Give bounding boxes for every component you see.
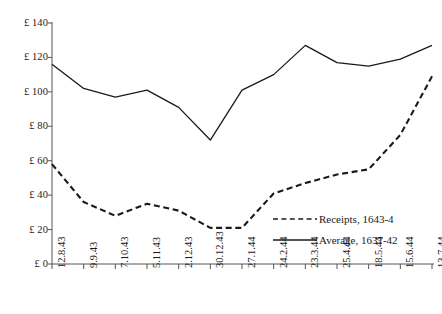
chart-container: £ 0£ 20£ 40£ 60£ 80£ 100£ 120£ 140 12.8.… <box>0 0 442 314</box>
chart-legend: Receipts, 1643-4 Average, 1637-42 <box>272 208 432 250</box>
legend-item-average: Average, 1637-42 <box>272 229 432 250</box>
legend-dashed-line-icon <box>272 214 318 224</box>
legend-label-receipts: Receipts, 1643-4 <box>318 213 394 225</box>
x-axis-tick-labels: 12.8.439.9.437.10.435.11.432.12.4330.12.… <box>0 0 442 314</box>
legend-solid-line-icon <box>272 235 318 245</box>
legend-item-receipts: Receipts, 1643-4 <box>272 208 432 229</box>
legend-label-average: Average, 1637-42 <box>318 234 398 246</box>
